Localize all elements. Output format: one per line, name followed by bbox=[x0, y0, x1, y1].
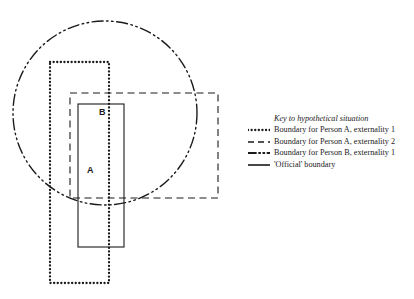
region-label-a: A bbox=[87, 166, 94, 175]
legend: Key to hypothetical situation Boundary f… bbox=[248, 113, 410, 170]
person-a-externality-1-boundary bbox=[50, 62, 109, 283]
legend-row: Boundary for Person A, externality 1 bbox=[248, 124, 410, 136]
legend-label: Boundary for Person B, externality 1 bbox=[274, 147, 395, 159]
legend-label: Boundary for Person A, externality 1 bbox=[274, 124, 395, 136]
official-boundary bbox=[78, 104, 124, 247]
legend-row: Boundary for Person A, externality 2 bbox=[248, 136, 410, 148]
legend-row: 'Official' boundary bbox=[248, 159, 410, 171]
person-a-externality-2-boundary bbox=[70, 93, 218, 198]
dotted-line-swatch bbox=[248, 124, 270, 136]
legend-label: 'Official' boundary bbox=[274, 159, 335, 171]
region-label-b: B bbox=[99, 108, 106, 117]
diagram-page: B A Key to hypothetical situation Bounda… bbox=[0, 0, 414, 299]
legend-label: Boundary for Person A, externality 2 bbox=[274, 136, 395, 148]
legend-row: Boundary for Person B, externality 1 bbox=[248, 147, 410, 159]
dash-dot-dot-line-swatch bbox=[248, 147, 270, 159]
solid-line-swatch bbox=[248, 159, 270, 171]
legend-title: Key to hypothetical situation bbox=[274, 113, 410, 124]
dashed-line-swatch bbox=[248, 136, 270, 148]
